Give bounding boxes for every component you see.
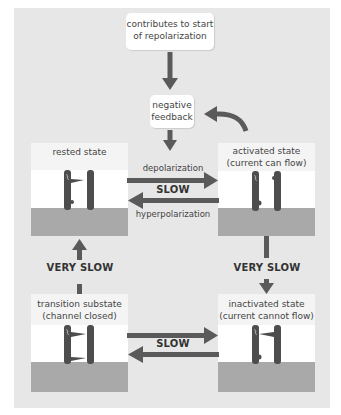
diagram-graphics [0,0,341,415]
arrow-down-top-icon [162,52,178,90]
curved-arrow-feedback-icon [204,106,246,131]
top-slow-label: SLOW [128,184,218,195]
depolarization-label: depolarization [128,163,218,173]
left-very-slow-label: VERY SLOW [40,262,120,273]
right-very-slow-label: VERY SLOW [227,262,307,273]
ion-channel-activated-icon [252,171,281,211]
ion-channel-rested-icon [64,170,94,210]
hyperpolarization-label: hyperpolarization [124,209,222,219]
arrow-down-feedback-icon [163,130,177,151]
ion-channel-inactivated-icon [252,325,281,364]
ion-channel-transition-icon [64,325,94,364]
bottom-slow-label: SLOW [128,338,218,349]
